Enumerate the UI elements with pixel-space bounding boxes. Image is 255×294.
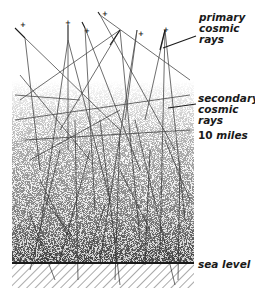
charge-markers: + + + + + + [20,10,169,38]
label-line: rays [199,34,245,45]
label-line: rays [198,115,255,126]
altitude-label: 10 miles [198,130,248,141]
svg-text:+: + [20,21,26,29]
svg-text:+: + [84,27,90,35]
altitude-number: 10 [198,129,213,141]
svg-text:+: + [65,19,71,27]
svg-text:+: + [102,10,108,18]
svg-text:+: + [163,26,169,34]
primary-cosmic-rays-label: primary cosmic rays [199,12,245,45]
secondary-cosmic-rays-label: secondary cosmic rays [198,93,255,126]
sea-level-label: sea level [198,259,250,270]
svg-text:+: + [138,30,144,38]
ground-hatch [12,263,194,288]
altitude-unit: miles [216,129,248,141]
